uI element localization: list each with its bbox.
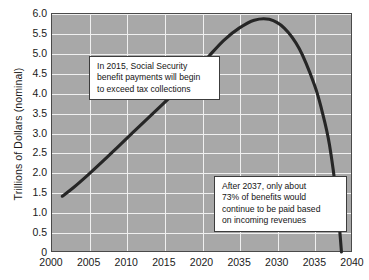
y-axis-tick-label: 4.0 [7, 87, 47, 99]
y-axis-tick-label: 5.5 [7, 27, 47, 39]
y-axis-tick-label: 3.5 [7, 107, 47, 119]
y-axis-tick-label: 4.5 [7, 67, 47, 79]
chart-figure: Trillions of Dollars (nominal) 00.51.01.… [0, 0, 369, 280]
annotation-2037-benefit-shortfall: After 2037, only about 73% of benefits w… [214, 176, 347, 232]
y-axis-tick-label: 2.5 [7, 146, 47, 158]
y-axis-tick-label: 1.5 [7, 186, 47, 198]
y-axis-tick-label: 6.0 [7, 7, 47, 19]
x-axis-tick-label: 2040 [324, 256, 369, 268]
y-axis-tick-label: 2.0 [7, 166, 47, 178]
y-axis-tick-label: 3.0 [7, 127, 47, 139]
y-axis-tick-label: 1.0 [7, 206, 47, 218]
y-axis-tick-label: 5.0 [7, 47, 47, 59]
annotation-2015-benefit-crossover: In 2015, Social Security benefit payment… [89, 56, 220, 100]
y-axis-tick-label: 0.5 [7, 226, 47, 238]
